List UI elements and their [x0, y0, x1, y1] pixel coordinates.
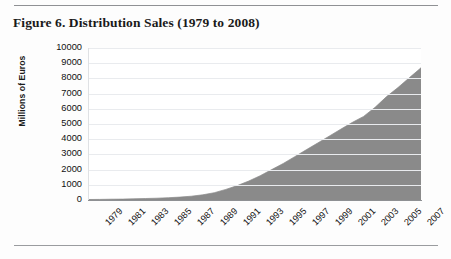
x-tick-label: 1999 [333, 206, 355, 228]
y-axis-title: Millions of Euros [17, 31, 27, 151]
gridline [88, 170, 421, 171]
gridline [88, 154, 421, 155]
x-tick-label: 1987 [195, 206, 217, 228]
x-tick-label: 1981 [126, 206, 148, 228]
y-tick-label: 3000 [36, 148, 82, 158]
gridline [88, 48, 421, 49]
y-tick-label: 2000 [36, 164, 82, 174]
top-divider-rule [14, 5, 438, 6]
gridline [88, 139, 421, 140]
y-tick-label: 6000 [36, 103, 82, 113]
chart-area-distribution-sales: Millions of Euros 1000090008000700060005… [0, 38, 451, 248]
figure-title: Figure 6. Distribution Sales (1979 to 20… [13, 15, 260, 31]
gridline [88, 124, 421, 125]
x-tick-label: 1979 [103, 206, 125, 228]
y-axis-line [88, 48, 89, 200]
plot-region [88, 48, 421, 200]
y-tick-label: 4000 [36, 133, 82, 143]
x-tick-label: 2003 [379, 206, 401, 228]
y-tick-label: 0 [36, 194, 82, 204]
gridline [88, 63, 421, 64]
x-tick-label: 2005 [402, 206, 424, 228]
gridline [88, 78, 421, 79]
y-tick-label: 10000 [36, 42, 82, 52]
y-tick-label: 5000 [36, 118, 82, 128]
x-axis-line [88, 200, 422, 201]
y-tick-label: 8000 [36, 72, 82, 82]
x-tick-label: 2001 [356, 206, 378, 228]
y-tick-label: 1000 [36, 179, 82, 189]
x-tick-label: 1993 [264, 206, 286, 228]
x-tick-label: 2007 [425, 206, 447, 228]
x-tick-label: 1983 [149, 206, 171, 228]
y-tick-label: 9000 [36, 57, 82, 67]
x-tick-label: 1989 [218, 206, 240, 228]
gridline [88, 109, 421, 110]
y-tick-label: 7000 [36, 88, 82, 98]
x-tick-label: 1997 [310, 206, 332, 228]
x-tick-label: 1995 [287, 206, 309, 228]
x-tick-label: 1985 [172, 206, 194, 228]
x-tick-label: 1991 [241, 206, 263, 228]
gridline [88, 94, 421, 95]
gridline [88, 185, 421, 186]
